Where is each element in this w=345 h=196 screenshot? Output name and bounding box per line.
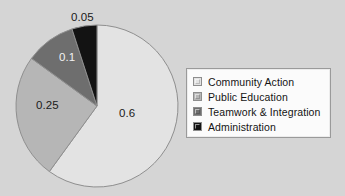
pie-chart-figure: 0.6 0.25 0.1 0.05 Community Action Publi… [0, 0, 345, 196]
legend-item-public-education[interactable]: Public Education [193, 89, 330, 104]
pie-data-label-public-education: 0.25 [36, 99, 59, 111]
chart-legend: Community Action Public Education Teamwo… [186, 68, 331, 138]
legend-label-public-education: Public Education [208, 91, 288, 103]
legend-label-administration: Administration [208, 121, 276, 133]
legend-item-community-action[interactable]: Community Action [193, 74, 330, 89]
legend-item-administration[interactable]: Administration [193, 119, 330, 134]
legend-item-teamwork-integration[interactable]: Teamwork & Integration [193, 104, 330, 119]
pie-data-label-community-action: 0.6 [119, 107, 135, 119]
legend-label-community-action: Community Action [208, 76, 294, 88]
pie-data-label-administration: 0.05 [71, 11, 94, 23]
legend-swatch-icon-community-action [193, 77, 202, 86]
legend-swatch-icon-public-education [193, 92, 202, 101]
pie-data-label-teamwork-integration: 0.1 [59, 51, 75, 63]
legend-label-teamwork-integration: Teamwork & Integration [208, 106, 321, 118]
legend-swatch-icon-administration [193, 122, 202, 131]
legend-swatch-icon-teamwork-integration [193, 107, 202, 116]
